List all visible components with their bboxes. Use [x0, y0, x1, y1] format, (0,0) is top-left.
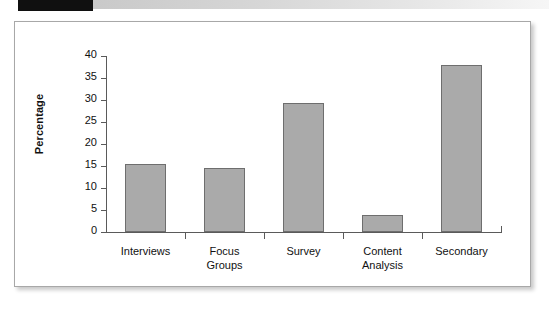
y-axis-tick-label: 20 [85, 136, 97, 148]
y-axis-title: Percentage [33, 76, 45, 172]
x-axis-category-label: Secondary [422, 244, 501, 258]
y-axis-line [106, 56, 107, 233]
top-decorative-band [0, 0, 549, 11]
y-axis-tick [101, 100, 106, 101]
y-axis-tick [101, 166, 106, 167]
bar [441, 65, 482, 232]
y-axis-tick [101, 78, 106, 79]
y-axis-tick-label: 40 [85, 48, 97, 60]
plot-area: 0510152025303540 InterviewsFocus GroupsS… [106, 56, 501, 232]
band-gradient-strip [93, 0, 549, 9]
bar-chart: Percentage 0510152025303540 InterviewsFo… [15, 22, 532, 288]
y-axis-tick [101, 144, 106, 145]
y-axis-tick [101, 56, 106, 57]
y-axis-tick [101, 232, 106, 233]
y-axis-tick-label: 30 [85, 92, 97, 104]
x-axis-category-label: Content Analysis [343, 244, 422, 272]
bar [362, 215, 403, 232]
y-axis-tick-label: 0 [91, 224, 97, 236]
x-axis-end-tick [501, 226, 502, 233]
bar [283, 103, 324, 232]
bar [204, 168, 245, 232]
y-axis-tick-label: 5 [91, 202, 97, 214]
x-axis-separator-tick [264, 233, 265, 239]
y-axis-tick-label: 10 [85, 180, 97, 192]
x-axis-separator-tick [185, 233, 186, 239]
y-axis-tick-label: 35 [85, 70, 97, 82]
band-black-block [18, 0, 93, 11]
x-axis-category-label: Focus Groups [185, 244, 264, 272]
x-axis-line [106, 232, 502, 233]
x-axis-category-label: Interviews [106, 244, 185, 258]
y-axis-tick-label: 15 [85, 158, 97, 170]
y-axis-tick [101, 210, 106, 211]
x-axis-separator-tick [343, 233, 344, 239]
y-axis-tick [101, 188, 106, 189]
x-axis-category-label: Survey [264, 244, 343, 258]
y-axis-tick-label: 25 [85, 114, 97, 126]
bar [125, 164, 166, 232]
figure-frame: Percentage 0510152025303540 InterviewsFo… [14, 21, 531, 287]
x-axis-separator-tick [422, 233, 423, 239]
y-axis-tick [101, 122, 106, 123]
